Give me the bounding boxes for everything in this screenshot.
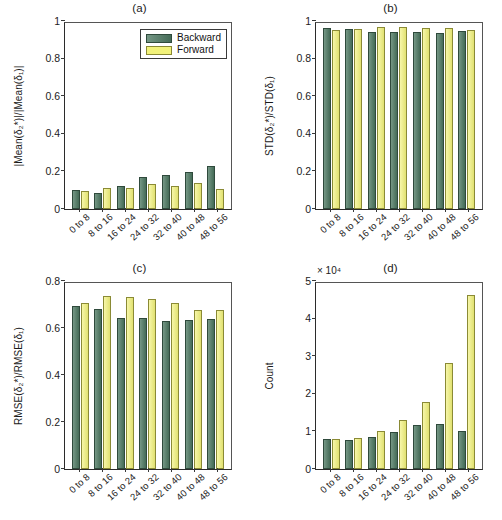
panel-d-bars (316, 283, 482, 469)
x-tick-mark (102, 468, 103, 472)
panel-d-plot-area: 012345 (315, 282, 483, 470)
bar-backward (436, 424, 444, 469)
x-tick-mark (330, 208, 331, 212)
panel-b-ylabel: STD(δ₂*)/STD(δ₁) (264, 76, 275, 156)
bar-group (368, 283, 385, 469)
y-tick-label: 0.2 (45, 417, 60, 428)
y-tick-mark (312, 280, 316, 281)
x-tick-mark (422, 208, 423, 212)
bar-group (323, 23, 340, 209)
legend-row-forward: Forward (146, 45, 221, 55)
bar-forward (399, 27, 407, 209)
y-tick-label: 0.6 (45, 323, 60, 334)
y-tick-mark (312, 208, 316, 209)
y-tick-mark (312, 430, 316, 431)
y-tick-label: 0 (305, 204, 311, 215)
bar-forward (332, 30, 340, 209)
figure-container: (a) |Mean(δ₂*)|/|Mean(δ₁)| Backward Forw… (0, 0, 502, 520)
bar-forward (422, 402, 430, 469)
bar-backward (368, 32, 376, 209)
bar-forward (467, 295, 475, 469)
x-tick-mark (376, 208, 377, 212)
y-tick-label: 0.2 (45, 166, 60, 177)
bar-forward (399, 420, 407, 469)
y-tick-label: 0 (54, 464, 60, 475)
bar-group (117, 283, 134, 469)
panel-d-ylabel: Count (264, 362, 275, 389)
panel-b: (b) STD(δ₂*)/STD(δ₁) 00.20.40.60.81 0 to… (251, 0, 502, 260)
panel-a-ylabel-wrap: |Mean(δ₂*)|/|Mean(δ₁)| (10, 22, 26, 210)
bar-backward (413, 425, 421, 469)
bar-group (345, 23, 362, 209)
bar-backward (458, 31, 466, 209)
y-tick-label: 0 (54, 204, 60, 215)
bar-forward (103, 188, 111, 209)
y-tick-label: 3 (305, 351, 311, 362)
bar-forward (216, 189, 224, 209)
legend-label-backward: Backward (177, 33, 221, 43)
x-tick-mark (422, 468, 423, 472)
legend-row-backward: Backward (146, 33, 221, 43)
y-tick-label: 0.4 (296, 129, 311, 140)
bar-group (117, 23, 134, 209)
bar-backward (458, 431, 466, 469)
bar-group (94, 283, 111, 469)
y-tick-mark (61, 133, 65, 134)
y-tick-label: 1 (305, 16, 311, 27)
bar-group (368, 23, 385, 209)
bar-backward (323, 439, 331, 469)
y-tick-label: 0.8 (45, 53, 60, 64)
bar-backward (94, 309, 102, 469)
panel-a-xticks: 0 to 88 to 1616 to 2424 to 3232 to 4040 … (64, 212, 232, 258)
y-tick-mark (61, 208, 65, 209)
bar-forward (171, 303, 179, 469)
panel-d-ylabel-wrap: Count (261, 282, 277, 470)
panel-b-bars (316, 23, 482, 209)
bar-forward (81, 191, 89, 209)
panel-a-title: (a) (0, 2, 251, 14)
bar-backward (117, 318, 125, 469)
legend-label-forward: Forward (177, 45, 214, 55)
panel-c-bars (65, 283, 231, 469)
bar-forward (422, 28, 430, 209)
panel-a-ylabel: |Mean(δ₂*)|/|Mean(δ₁)| (13, 66, 24, 167)
bar-group (413, 23, 430, 209)
x-tick-mark (217, 208, 218, 212)
bar-backward (72, 190, 80, 209)
bar-backward (207, 319, 215, 469)
y-tick-label: 0.4 (45, 370, 60, 381)
bar-group (436, 23, 453, 209)
bar-group (458, 283, 475, 469)
x-tick-mark (376, 468, 377, 472)
bar-backward (345, 440, 353, 469)
x-tick-mark (125, 468, 126, 472)
bar-backward (207, 166, 215, 209)
y-tick-mark (312, 393, 316, 394)
bar-group (94, 23, 111, 209)
y-tick-label: 0.4 (45, 129, 60, 140)
legend-swatch-backward-icon (146, 34, 172, 43)
y-tick-label: 5 (305, 276, 311, 287)
legend-swatch-forward-icon (146, 46, 172, 55)
bar-forward (332, 439, 340, 469)
y-tick-mark (61, 468, 65, 469)
panel-d: (d) × 10⁴ Count 012345 0 to 88 to 1616 t… (251, 260, 502, 520)
bar-group (185, 283, 202, 469)
y-tick-mark (61, 280, 65, 281)
bar-forward (126, 188, 134, 209)
bar-group (413, 283, 430, 469)
panel-a: (a) |Mean(δ₂*)|/|Mean(δ₁)| Backward Forw… (0, 0, 251, 260)
bar-backward (162, 175, 170, 209)
bar-group (323, 283, 340, 469)
x-tick-mark (125, 208, 126, 212)
bar-forward (171, 186, 179, 210)
panel-c-plot-area: 00.20.40.60.8 (64, 282, 232, 470)
bar-forward (194, 183, 202, 209)
bar-group (162, 283, 179, 469)
bar-forward (216, 310, 224, 469)
panel-c-title: (c) (0, 262, 251, 274)
x-tick-mark (399, 468, 400, 472)
y-tick-mark (312, 95, 316, 96)
bar-backward (390, 432, 398, 469)
y-tick-mark (61, 20, 65, 21)
